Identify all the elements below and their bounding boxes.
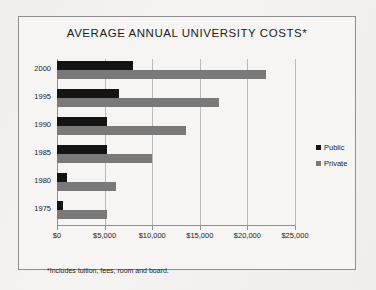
legend: PublicPrivate xyxy=(316,143,347,175)
legend-swatch-icon xyxy=(316,161,321,166)
x-tick-label: $20,000 xyxy=(234,231,261,240)
x-tick-label: $10,000 xyxy=(139,231,166,240)
plot-area: 200019951990198519801975 $0$5,000$10,000… xyxy=(57,59,295,226)
y-axis-category-label: 2000 xyxy=(34,64,51,73)
chart-page: AVERAGE ANNUAL UNIVERSITY COSTS* 2000199… xyxy=(0,0,376,290)
tick-mark-5000 xyxy=(105,226,106,230)
bar-group: 1980 xyxy=(57,173,295,191)
bar-private-1985 xyxy=(57,154,152,163)
y-axis-category-label: 1985 xyxy=(34,148,51,157)
footnote: *Includes tuition, fees, room and board. xyxy=(47,267,169,274)
tick-mark-25000 xyxy=(295,226,296,230)
x-tick-label: $5,000 xyxy=(93,231,116,240)
bar-private-1995 xyxy=(57,98,219,107)
bar-public-1995 xyxy=(57,89,119,98)
bar-group: 1995 xyxy=(57,89,295,107)
tick-mark-15000 xyxy=(200,226,201,230)
chart-title: AVERAGE ANNUAL UNIVERSITY COSTS* xyxy=(19,27,355,39)
legend-label: Public xyxy=(324,143,344,152)
bar-public-2000 xyxy=(57,61,133,70)
x-axis-line xyxy=(57,225,295,226)
tick-mark-20000 xyxy=(247,226,248,230)
x-tick-label: $0 xyxy=(53,231,61,240)
x-tick-label: $15,000 xyxy=(186,231,213,240)
x-tick-label: $25,000 xyxy=(281,231,308,240)
bar-private-1990 xyxy=(57,126,186,135)
bar-private-2000 xyxy=(57,70,266,79)
legend-item-public: Public xyxy=(316,143,347,152)
bar-group: 1985 xyxy=(57,145,295,163)
bar-group: 2000 xyxy=(57,61,295,79)
legend-label: Private xyxy=(324,159,347,168)
bar-public-1990 xyxy=(57,117,107,126)
y-axis-category-label: 1980 xyxy=(34,176,51,185)
legend-swatch-icon xyxy=(316,145,321,150)
bar-group: 1990 xyxy=(57,117,295,135)
gridline-25000 xyxy=(295,59,296,226)
bar-private-1980 xyxy=(57,182,116,191)
chart-frame: AVERAGE ANNUAL UNIVERSITY COSTS* 2000199… xyxy=(18,16,356,270)
legend-item-private: Private xyxy=(316,159,347,168)
bar-public-1980 xyxy=(57,173,67,182)
y-axis-category-label: 1975 xyxy=(34,204,51,213)
y-axis-category-label: 1995 xyxy=(34,92,51,101)
bar-public-1975 xyxy=(57,201,63,210)
bar-group: 1975 xyxy=(57,201,295,219)
bar-public-1985 xyxy=(57,145,107,154)
y-axis-category-label: 1990 xyxy=(34,120,51,129)
tick-mark-0 xyxy=(57,226,58,230)
bar-private-1975 xyxy=(57,210,107,219)
tick-mark-10000 xyxy=(152,226,153,230)
